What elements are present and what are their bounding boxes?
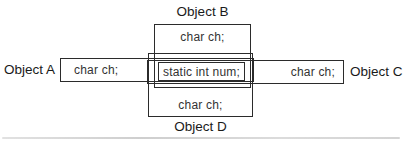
shared-static-member-box: static int num; <box>158 62 245 81</box>
object-d-member-declaration: char ch; <box>178 99 222 111</box>
object-c-label: Object C <box>350 65 403 79</box>
object-d-label: Object D <box>148 120 253 134</box>
object-b-member-declaration: char ch; <box>180 31 224 43</box>
object-b-label: Object B <box>154 5 251 19</box>
static-member-diagram: Object B Object A Object C Object D char… <box>0 0 403 141</box>
object-c-member-declaration: char ch; <box>291 66 335 78</box>
object-a-member-declaration: char ch; <box>74 64 118 76</box>
object-a-label: Object A <box>2 63 55 77</box>
page-edge-artifact <box>2 137 400 139</box>
static-member-declaration: static int num; <box>163 66 240 78</box>
